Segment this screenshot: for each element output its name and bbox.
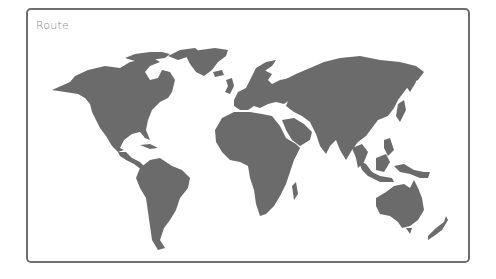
japan bbox=[396, 100, 406, 122]
tasmania bbox=[406, 228, 412, 234]
south-america[interactable] bbox=[136, 158, 190, 250]
australia[interactable] bbox=[376, 180, 424, 228]
iceland bbox=[213, 70, 224, 77]
uk bbox=[225, 78, 234, 94]
new-zealand bbox=[428, 216, 448, 240]
philippines bbox=[384, 138, 394, 156]
north-america[interactable] bbox=[52, 56, 175, 152]
madagascar bbox=[292, 182, 298, 200]
new-guinea bbox=[394, 164, 430, 178]
europe[interactable] bbox=[234, 70, 290, 110]
world-map[interactable] bbox=[0, 0, 496, 279]
caribbean bbox=[140, 144, 158, 149]
borneo bbox=[376, 154, 390, 172]
